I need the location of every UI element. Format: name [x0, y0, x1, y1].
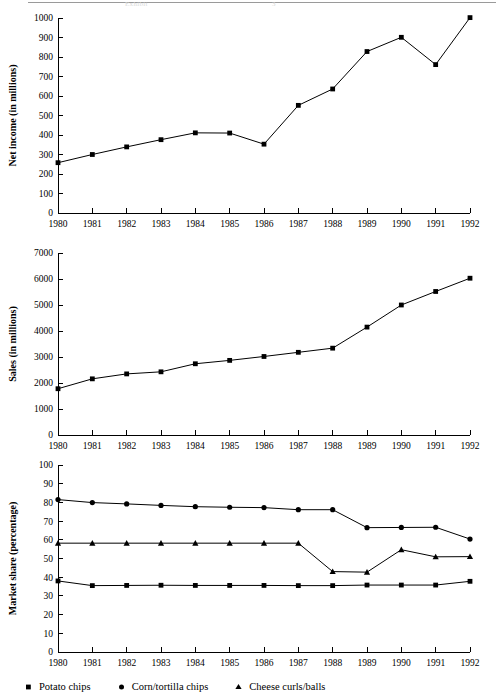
- x-axis-tick-label: 1992: [461, 219, 480, 229]
- data-point-marker: [227, 358, 232, 363]
- circle-marker-icon: [117, 682, 126, 691]
- data-point-marker: [330, 507, 335, 512]
- data-point-marker: [56, 160, 61, 165]
- data-point-marker: [330, 87, 335, 92]
- y-axis-tick-label: 90: [44, 479, 54, 489]
- x-axis-tick-label: 1984: [186, 441, 205, 451]
- ghost-text-left: Exhibit: [125, 0, 148, 8]
- x-axis-tick-label: 1983: [152, 658, 171, 668]
- series-line: [58, 18, 470, 163]
- chart-legend: Potato chipsCorn/tortilla chipsCheese cu…: [24, 677, 484, 695]
- data-point-marker: [296, 507, 301, 512]
- data-point-marker: [227, 505, 232, 510]
- data-point-marker: [159, 583, 164, 588]
- chart-sales: 0100020003000400050006000700019801981198…: [0, 243, 496, 465]
- x-axis-tick-label: 1980: [49, 441, 68, 451]
- data-point-marker: [433, 583, 438, 588]
- data-point-marker: [193, 583, 198, 588]
- legend-item-triangle: Cheese curls/balls: [234, 681, 325, 692]
- x-axis-tick-label: 1992: [461, 658, 480, 668]
- x-axis-tick-label: 1991: [426, 219, 445, 229]
- data-point-marker: [90, 500, 95, 505]
- legend-label: Corn/tortilla chips: [132, 681, 209, 692]
- data-point-marker: [365, 49, 370, 54]
- data-point-marker: [90, 376, 95, 381]
- x-axis-tick-label: 1986: [255, 441, 274, 451]
- x-axis-tick-label: 1985: [220, 441, 239, 451]
- data-point-marker: [261, 505, 266, 510]
- y-axis-title: Net income (in millions): [7, 65, 19, 167]
- data-point-marker: [365, 325, 370, 330]
- data-point-marker: [124, 372, 129, 377]
- data-point-marker: [56, 579, 61, 584]
- data-point-marker: [262, 583, 267, 588]
- y-axis-tick-label: 0: [48, 430, 53, 440]
- data-point-marker: [296, 103, 301, 108]
- x-axis-tick-label: 1983: [152, 441, 171, 451]
- data-point-marker: [399, 303, 404, 308]
- x-axis-tick-label: 1983: [152, 219, 171, 229]
- y-axis-tick-label: 70: [44, 517, 54, 527]
- y-axis-tick-label: 60: [44, 535, 54, 545]
- y-axis-tick-label: 900: [39, 33, 54, 43]
- x-axis-tick-label: 1984: [186, 219, 205, 229]
- x-axis-tick-label: 1985: [220, 658, 239, 668]
- y-axis-tick-label: 5000: [34, 300, 53, 310]
- x-axis-tick-label: 1987: [289, 219, 308, 229]
- x-axis-tick-label: 1992: [461, 441, 480, 451]
- y-axis-tick-label: 10: [44, 629, 54, 639]
- x-axis-tick-label: 1982: [117, 658, 136, 668]
- x-axis-tick-label: 1989: [358, 219, 377, 229]
- y-axis-tick-label: 3000: [34, 352, 53, 362]
- data-point-marker: [468, 15, 473, 20]
- data-point-marker: [90, 152, 95, 157]
- chart-net-income: 0100200300400500600700800900100019801981…: [0, 8, 496, 240]
- y-axis-tick-label: 7000: [34, 248, 53, 258]
- data-point-marker: [262, 354, 267, 359]
- legend-label: Potato chips: [39, 681, 91, 692]
- x-axis-tick-label: 1980: [49, 219, 68, 229]
- y-axis-tick-label: 400: [39, 130, 54, 140]
- data-point-marker: [399, 583, 404, 588]
- x-axis-tick-label: 1986: [255, 658, 274, 668]
- x-axis-tick-label: 1981: [83, 658, 102, 668]
- y-axis-tick-label: 30: [44, 591, 54, 601]
- chart-canvas-sales: 0100020003000400050006000700019801981198…: [0, 243, 496, 465]
- x-axis-tick-label: 1987: [289, 441, 308, 451]
- page-top-rule: [28, 2, 496, 3]
- data-point-marker: [468, 579, 473, 584]
- y-axis-tick-label: 4000: [34, 326, 53, 336]
- data-point-marker: [433, 289, 438, 294]
- y-axis-tick-label: 0: [48, 208, 53, 218]
- data-point-marker: [330, 346, 335, 351]
- chart-page: Exhibit 3 010020030040050060070080090010…: [0, 0, 496, 697]
- data-point-marker: [467, 536, 472, 541]
- y-axis-tick-label: 2000: [34, 378, 53, 388]
- data-point-marker: [124, 501, 129, 506]
- triangle-marker-icon: [234, 682, 243, 691]
- y-axis-tick-label: 1000: [34, 13, 53, 23]
- y-axis-tick-label: 600: [39, 91, 54, 101]
- y-axis-tick-label: 200: [39, 169, 54, 179]
- y-axis-tick-label: 0: [48, 647, 53, 657]
- x-axis-tick-label: 1981: [83, 441, 102, 451]
- data-point-marker: [330, 583, 335, 588]
- chart-canvas-market-share: 0102030405060708090100198019811982198319…: [0, 455, 496, 677]
- x-axis-tick-label: 1991: [426, 658, 445, 668]
- data-point-marker: [159, 137, 164, 142]
- x-axis-tick-label: 1986: [255, 219, 274, 229]
- x-axis-tick-label: 1988: [323, 219, 342, 229]
- x-axis-tick-label: 1988: [323, 441, 342, 451]
- data-point-marker: [90, 583, 95, 588]
- x-axis-tick-label: 1988: [323, 658, 342, 668]
- y-axis-tick-label: 800: [39, 52, 54, 62]
- data-point-marker: [296, 350, 301, 355]
- x-axis-tick-label: 1989: [358, 441, 377, 451]
- y-axis-tick-label: 100: [39, 460, 54, 470]
- data-point-marker: [193, 361, 198, 366]
- data-point-marker: [227, 131, 232, 136]
- series-line: [58, 543, 470, 572]
- data-point-marker: [159, 369, 164, 374]
- x-axis-tick-label: 1981: [83, 219, 102, 229]
- y-axis-tick-label: 1000: [34, 404, 53, 414]
